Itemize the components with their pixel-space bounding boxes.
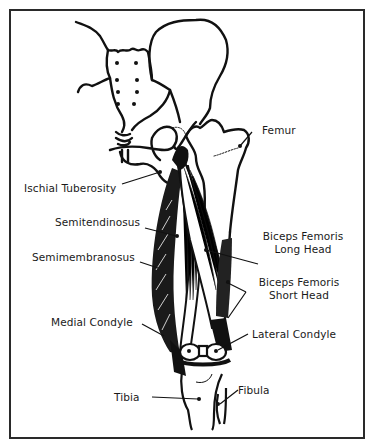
- label-tibia: Tibia: [114, 391, 140, 404]
- knee-joint: [176, 344, 230, 430]
- sacral-foramina: [115, 61, 139, 106]
- label-fibula: Fibula: [238, 384, 269, 397]
- label-biceps-short-line1: Biceps Femoris: [254, 276, 344, 289]
- label-ischial-tuberosity: Ischial Tuberosity: [24, 182, 116, 195]
- label-femur: Femur: [262, 124, 296, 137]
- label-biceps-long-line2: Long Head: [258, 243, 348, 256]
- sacrum: [76, 22, 170, 145]
- label-biceps-short-line2: Short Head: [254, 289, 344, 302]
- label-semitendinosus: Semitendinosus: [55, 216, 140, 229]
- label-biceps-long-line1: Biceps Femoris: [258, 230, 348, 243]
- label-semimembranosus: Semimembranosus: [32, 251, 135, 264]
- label-biceps-femoris-long-head: Biceps Femoris Long Head: [258, 230, 348, 256]
- label-biceps-femoris-short-head: Biceps Femoris Short Head: [254, 276, 344, 302]
- label-medial-condyle: Medial Condyle: [51, 316, 133, 329]
- label-lateral-condyle: Lateral Condyle: [252, 328, 336, 341]
